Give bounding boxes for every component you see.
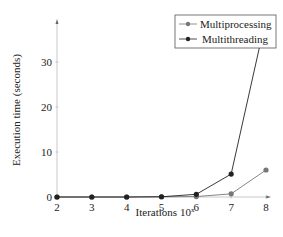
x-tick-label: 2 — [54, 201, 60, 213]
data-point-multiprocessing — [229, 191, 234, 196]
data-point-multithreading — [54, 194, 59, 199]
legend-marker-multiprocessing — [186, 22, 190, 26]
y-tick-label: 20 — [41, 101, 53, 113]
x-tick-label: 8 — [263, 201, 269, 213]
data-point-multithreading — [194, 192, 199, 197]
x-tick-label: 7 — [228, 201, 234, 213]
data-point-multithreading — [124, 194, 129, 199]
y-axis-arrow-icon — [56, 19, 59, 24]
y-axis-label: Execution time (seconds) — [10, 54, 23, 166]
data-point-multithreading — [159, 194, 164, 199]
line-chart: 01020302345678 Iterations 10x Execution … — [0, 0, 283, 237]
data-point-multithreading — [89, 194, 94, 199]
legend: Multiprocessing Multithreading — [175, 15, 276, 48]
series-line-multiprocessing — [57, 170, 266, 197]
data-point-multithreading — [229, 171, 234, 176]
data-point-multiprocessing — [263, 167, 268, 172]
y-tick-label: 10 — [41, 146, 53, 158]
x-tick-label: 4 — [124, 201, 130, 213]
y-tick-label: 30 — [41, 56, 53, 68]
x-axis-label: Iterations 10x — [136, 206, 195, 218]
x-tick-label: 6 — [194, 201, 200, 213]
y-tick-label: 0 — [47, 191, 53, 203]
x-axis-arrow-icon — [266, 196, 271, 199]
legend-marker-multithreading — [186, 37, 190, 41]
legend-label-multiprocessing: Multiprocessing — [200, 18, 272, 30]
legend-label-multithreading: Multithreading — [202, 33, 268, 45]
x-tick-label: 3 — [89, 201, 95, 213]
